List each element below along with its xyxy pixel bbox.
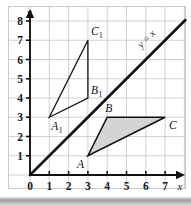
y-tick-label: 2 bbox=[17, 131, 23, 143]
x-tick-label: 0 bbox=[27, 180, 33, 191]
x-tick-label: 6 bbox=[143, 180, 149, 191]
y-axis-name-label: y bbox=[26, 6, 32, 18]
y-tick-label: 3 bbox=[17, 111, 23, 123]
y-tick-label: 7 bbox=[17, 34, 23, 46]
vertex-label-B: B bbox=[105, 102, 112, 114]
bottom-gradient-band bbox=[0, 196, 191, 205]
vertex-label-A: A bbox=[76, 158, 85, 170]
y-tick-label: 1 bbox=[17, 150, 23, 162]
x-tick-label: 5 bbox=[124, 180, 130, 191]
x-tick-label: 7 bbox=[162, 180, 168, 191]
x-axis-name-label: x bbox=[177, 180, 183, 191]
y-tick-label: 6 bbox=[17, 54, 23, 66]
x-tick-label: 1 bbox=[46, 180, 52, 191]
y-tick-label: 4 bbox=[17, 92, 23, 104]
vertex-label-C: C bbox=[169, 119, 177, 131]
y-tick-label: 8 bbox=[17, 15, 23, 27]
vertex-label-subscript: 1 bbox=[98, 90, 102, 99]
x-tick-label: 4 bbox=[104, 180, 110, 191]
x-tick-label: 3 bbox=[85, 180, 91, 191]
vertex-label-subscript: 1 bbox=[59, 126, 63, 135]
figure-page: 0123456712345678 yx ABCA1B1C1 y = x bbox=[0, 0, 191, 205]
y-tick-label: 5 bbox=[17, 73, 23, 85]
x-tick-label: 2 bbox=[66, 180, 72, 191]
plot-svg: 0123456712345678 yx ABCA1B1C1 y = x bbox=[0, 0, 191, 190]
coordinate-plane-figure: 0123456712345678 yx ABCA1B1C1 y = x bbox=[0, 0, 191, 190]
vertex-label-subscript: 1 bbox=[99, 31, 103, 40]
